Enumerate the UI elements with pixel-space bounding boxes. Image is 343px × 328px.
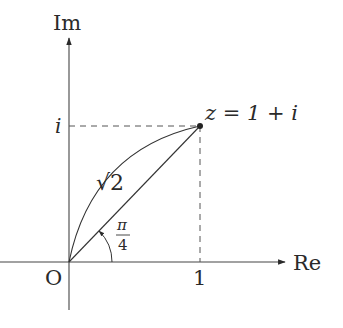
vector-oz xyxy=(69,126,200,262)
angle-arc xyxy=(99,231,112,262)
angle-denominator: 4 xyxy=(118,236,128,254)
x-tick-label: 1 xyxy=(193,266,206,290)
point-z-label: z = 1 + i xyxy=(204,101,298,125)
real-axis-label: Re xyxy=(293,251,321,275)
origin-label: O xyxy=(45,266,62,290)
angle-numerator: π xyxy=(116,216,128,234)
y-tick-label: i xyxy=(55,114,61,138)
modulus-label: √2 xyxy=(96,170,124,195)
imaginary-axis-label: Im xyxy=(53,11,81,35)
point-z xyxy=(197,123,203,129)
complex-plane-diagram: Im Re O 1 i z = 1 + i √2 π 4 xyxy=(0,0,343,328)
